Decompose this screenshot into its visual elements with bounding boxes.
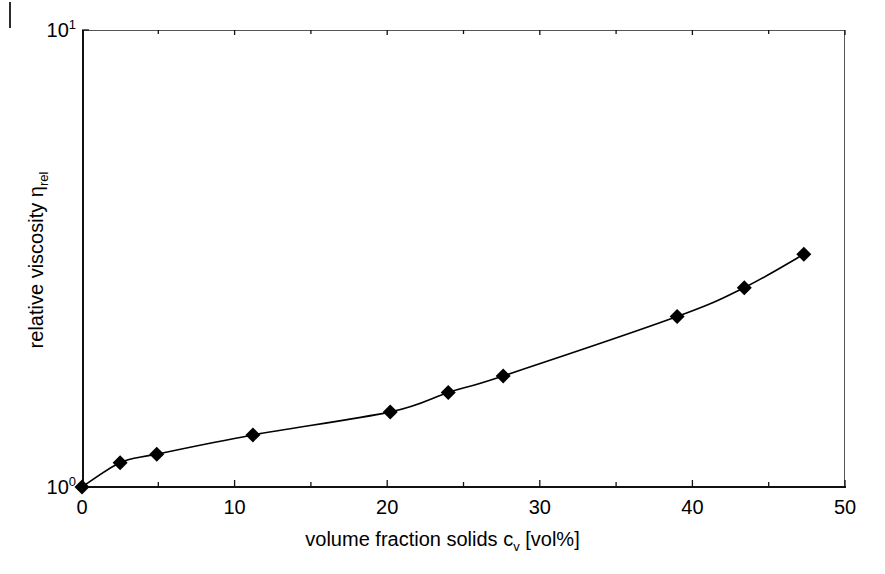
data-point-marker: [737, 280, 752, 295]
data-point-marker: [383, 404, 398, 419]
plot-canvas: [0, 0, 885, 574]
chart-figure: 101 100 01020304050 volume fraction soli…: [0, 0, 885, 574]
y-axis-title: relative viscosity ηrel: [25, 172, 47, 349]
x-axis-title-main: volume fraction solids c: [305, 528, 513, 550]
x-tick-label-40: 40: [672, 496, 712, 518]
axis-ticks: [82, 30, 845, 487]
data-point-marker: [75, 480, 90, 495]
y-tick-exponent: 0: [69, 474, 76, 489]
x-axis-title: volume fraction solids cv [vol%]: [0, 528, 885, 551]
data-point-marker: [113, 455, 128, 470]
data-point-marker: [149, 447, 164, 462]
data-point-marker: [245, 427, 260, 442]
x-tick-label-30: 30: [520, 496, 560, 518]
x-axis-title-tail: [vol%]: [520, 528, 580, 550]
y-tick-exponent: 1: [69, 17, 76, 32]
data-markers: [75, 247, 812, 495]
data-point-marker: [670, 309, 685, 324]
x-tick-label-0: 0: [62, 496, 102, 518]
y-axis-title-subscript: rel: [36, 172, 51, 186]
data-point-marker: [796, 247, 811, 262]
data-point-marker: [441, 385, 456, 400]
data-line: [82, 254, 804, 487]
data-point-marker: [496, 368, 511, 383]
x-tick-label-50: 50: [825, 496, 865, 518]
y-axis-title-main: relative viscosity η: [25, 186, 47, 348]
x-tick-label-20: 20: [367, 496, 407, 518]
y-axis-title-wrapper: relative viscosity ηrel: [25, 30, 55, 490]
x-tick-label-10: 10: [215, 496, 255, 518]
